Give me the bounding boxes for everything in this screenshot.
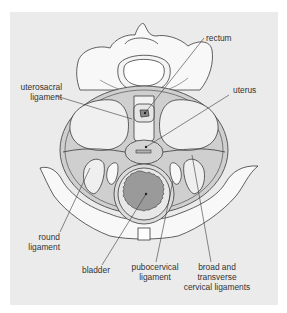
label-pubocervical-line2: ligament (126, 272, 184, 282)
label-broad-transverse-cervical-ligaments: broad and transverse cervical ligaments (180, 262, 254, 292)
bladder (114, 164, 174, 224)
label-rectum: rectum (206, 33, 232, 43)
label-broad-line2: transverse (180, 272, 254, 282)
label-pubocervical-ligament: pubocervical ligament (126, 262, 184, 282)
label-broad-line3: cervical ligaments (180, 282, 254, 292)
label-uterosacral-line1: uterosacral (14, 82, 62, 92)
label-uterosacral-ligament: uterosacral ligament (14, 82, 62, 102)
label-round-line1: round (24, 232, 60, 242)
label-round-line2: ligament (24, 242, 60, 252)
label-bladder: bladder (82, 265, 110, 275)
label-round-ligament: round ligament (24, 232, 60, 252)
label-uterosacral-line2: ligament (14, 92, 62, 102)
label-pubocervical-line1: pubocervical (126, 262, 184, 272)
label-uterus: uterus (233, 85, 256, 95)
rectum (134, 96, 154, 143)
label-broad-line1: broad and (180, 262, 254, 272)
